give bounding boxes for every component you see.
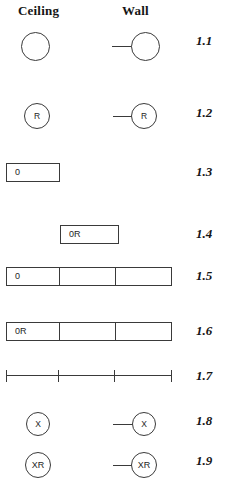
bar-segment: 0R bbox=[61, 226, 118, 243]
ceiling-symbol-label: R bbox=[34, 112, 40, 121]
bar-segment-label: 0R bbox=[7, 327, 27, 336]
symbol-legend-figure: Ceiling Wall 1.1 R R 1.2 0 1.3 0R 1.4 0 … bbox=[0, 0, 243, 484]
bar-segment bbox=[59, 268, 115, 285]
wall-symbol-circle-xr: XR bbox=[131, 452, 157, 478]
ceiling-symbol-label: XR bbox=[32, 461, 45, 470]
row-number-1-7: 1.7 bbox=[196, 368, 212, 384]
wall-lead-line bbox=[113, 465, 132, 466]
ceiling-symbol-label: X bbox=[35, 420, 41, 429]
axis-tick bbox=[114, 370, 115, 382]
axis-tick bbox=[6, 370, 7, 382]
axis-tick bbox=[171, 370, 172, 382]
wall-symbol-bar-single: 0R bbox=[60, 225, 119, 244]
wall-symbol-circle-x: X bbox=[132, 412, 156, 436]
wall-lead-line bbox=[112, 46, 132, 47]
wall-symbol-circle-plain bbox=[131, 32, 160, 61]
bar-segment bbox=[115, 268, 171, 285]
ceiling-symbol-circle-xr: XR bbox=[25, 452, 51, 478]
bar-segment bbox=[115, 323, 171, 340]
ceiling-symbol-bar-single: 0 bbox=[6, 163, 60, 182]
bar-segment: 0 bbox=[7, 268, 59, 285]
row-number-1-8: 1.8 bbox=[196, 413, 212, 429]
row-number-1-2: 1.2 bbox=[196, 105, 212, 121]
column-header-wall: Wall bbox=[122, 3, 149, 19]
wall-symbol-circle-r: R bbox=[131, 103, 157, 129]
ceiling-symbol-circle-r: R bbox=[24, 103, 50, 129]
axis-tick bbox=[58, 370, 59, 382]
wall-lead-line bbox=[113, 424, 133, 425]
column-header-ceiling: Ceiling bbox=[18, 3, 59, 19]
bar-segment bbox=[59, 323, 115, 340]
wall-symbol-label: X bbox=[141, 420, 147, 429]
bar-segment: 0R bbox=[7, 323, 59, 340]
row-number-1-3: 1.3 bbox=[196, 164, 212, 180]
row-number-1-6: 1.6 bbox=[196, 323, 212, 339]
row-number-1-4: 1.4 bbox=[196, 226, 212, 242]
bar-segment-label: 0R bbox=[61, 230, 81, 239]
ceiling-symbol-circle-x: X bbox=[26, 412, 50, 436]
ceiling-symbol-circle-plain bbox=[21, 32, 50, 61]
wall-lead-line bbox=[113, 116, 132, 117]
wall-symbol-label: XR bbox=[138, 461, 151, 470]
bar-segment-label: 0 bbox=[7, 272, 20, 281]
ceiling-symbol-bar-triple: 0 bbox=[6, 267, 172, 286]
ceiling-symbol-bar-triple-or: 0R bbox=[6, 322, 172, 341]
row-number-1-9: 1.9 bbox=[196, 453, 212, 469]
row-number-1-5: 1.5 bbox=[196, 268, 212, 284]
ceiling-symbol-axis-line bbox=[6, 375, 172, 376]
wall-symbol-label: R bbox=[141, 112, 147, 121]
bar-segment-label: 0 bbox=[7, 168, 20, 177]
bar-segment: 0 bbox=[7, 164, 59, 181]
row-number-1-1: 1.1 bbox=[196, 33, 212, 49]
